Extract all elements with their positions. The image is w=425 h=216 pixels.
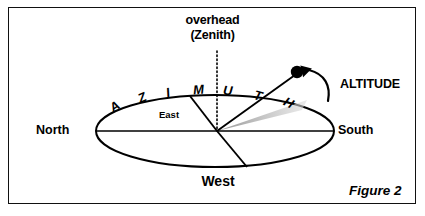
east-label: East [159,110,179,120]
west-label: West [201,174,234,188]
azimuth-letter-m-3: M [192,82,204,98]
west-radius-line [217,131,247,167]
zenith-label: overhead (Zenith) [0,14,425,41]
altitude-callout-arrow [309,70,329,101]
zenith-label-line1: overhead [186,13,240,27]
south-label: South [338,124,373,137]
altitude-label: ALTITUDE [340,78,400,91]
north-label: North [36,124,69,137]
figure-caption: Figure 2 [349,184,402,198]
east-radius-line [190,96,217,131]
zenith-label-line2: (Zenith) [0,29,425,42]
shadow-projection-wedge [217,100,307,131]
azimuth-letter-u-4: U [222,83,233,99]
figure-container: overhead (Zenith) North South West East … [0,0,425,216]
